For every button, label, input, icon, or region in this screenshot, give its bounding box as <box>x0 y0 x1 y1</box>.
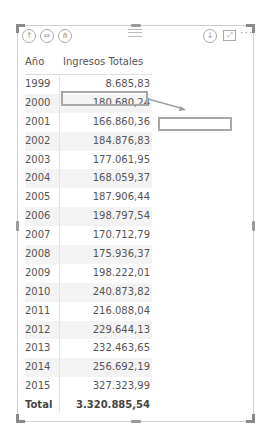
year-cell[interactable]: 2001 <box>25 116 57 127</box>
revenue-cell[interactable]: 256.692,19 <box>93 361 150 372</box>
table-row[interactable]: 2003177.061,95 <box>25 151 152 170</box>
visual-header-toolbar: ↑ ⇔ ⋔ ↓ ⤢ ··· <box>18 26 253 46</box>
year-cell[interactable]: 2003 <box>25 154 57 165</box>
year-cell[interactable]: 2011 <box>25 305 57 316</box>
table-row[interactable]: 2002184.876,83 <box>25 132 152 151</box>
resize-handle-right[interactable] <box>252 221 255 231</box>
table-row[interactable]: 2013232.463,65 <box>25 339 152 358</box>
revenue-cell[interactable]: 175.936,37 <box>93 248 150 259</box>
resize-handle-left[interactable] <box>16 221 19 231</box>
year-cell[interactable]: 2004 <box>25 172 57 183</box>
total-value: 3.320.885,54 <box>76 399 150 410</box>
table-row[interactable]: 2006198.797,54 <box>25 207 152 226</box>
revenue-cell[interactable]: 216.088,04 <box>93 305 150 316</box>
year-cell[interactable]: 2005 <box>25 191 57 202</box>
focus-mode-icon[interactable]: ⤢ <box>223 30 236 41</box>
resize-corner-bottom-right[interactable] <box>246 414 255 423</box>
revenue-cell[interactable]: 327.323,99 <box>93 380 150 391</box>
revenue-cell[interactable]: 240.873,82 <box>93 286 150 297</box>
revenue-cell[interactable]: 168.059,37 <box>93 172 150 183</box>
year-cell[interactable]: 2013 <box>25 342 57 353</box>
total-label: Total <box>25 399 57 410</box>
table-row[interactable]: 2007170.712,79 <box>25 226 152 245</box>
table-row[interactable]: 2015327.323,99 <box>25 377 152 396</box>
total-row: Total 3.320.885,54 <box>25 396 152 415</box>
more-options-icon[interactable]: ··· <box>240 26 254 39</box>
year-cell[interactable]: 2010 <box>25 286 57 297</box>
year-cell[interactable]: 2014 <box>25 361 57 372</box>
revenue-cell[interactable]: 177.061,95 <box>93 154 150 165</box>
column-header-year[interactable]: Año <box>25 56 44 67</box>
drill-mode-icon[interactable]: ↓ <box>203 29 217 43</box>
drag-grip-icon[interactable] <box>128 29 142 37</box>
revenue-cell[interactable]: 184.876,83 <box>93 135 150 146</box>
column-divider <box>59 75 60 413</box>
year-cell[interactable]: 2000 <box>25 97 57 108</box>
revenue-cell[interactable]: 229.644,13 <box>93 324 150 335</box>
table-row[interactable]: 2004168.059,37 <box>25 169 152 188</box>
year-cell[interactable]: 2009 <box>25 267 57 278</box>
year-cell[interactable]: 2002 <box>25 135 57 146</box>
table-row[interactable]: 2001166.860,36 <box>25 113 152 132</box>
revenue-cell[interactable]: 8.685,83 <box>105 78 150 89</box>
expand-all-icon[interactable]: ⇔ <box>40 29 54 43</box>
table-row[interactable]: 2011216.088,04 <box>25 302 152 321</box>
year-cell[interactable]: 2007 <box>25 229 57 240</box>
drill-down-hierarchy-icon[interactable]: ⋔ <box>58 29 72 43</box>
callout-box <box>158 117 232 131</box>
revenue-cell[interactable]: 166.860,36 <box>93 116 150 127</box>
revenue-cell[interactable]: 187.906,44 <box>93 191 150 202</box>
table-row[interactable]: 2009198.222,01 <box>25 264 152 283</box>
column-header-revenue[interactable]: Ingresos Totales <box>63 56 143 67</box>
year-cell[interactable]: 2015 <box>25 380 57 391</box>
table-visual[interactable]: ↑ ⇔ ⋔ ↓ ⤢ ··· Año Ingresos Totales 19998… <box>17 25 254 422</box>
table-header: Año Ingresos Totales <box>25 53 152 75</box>
revenue-cell[interactable]: 198.222,01 <box>93 267 150 278</box>
resize-corner-bottom-left[interactable] <box>16 414 25 423</box>
drill-up-icon[interactable]: ↑ <box>22 29 36 43</box>
year-cell[interactable]: 2012 <box>25 324 57 335</box>
table-row[interactable]: 2012229.644,13 <box>25 321 152 340</box>
year-cell[interactable]: 2006 <box>25 210 57 221</box>
resize-handle-bottom[interactable] <box>131 420 141 423</box>
table-row[interactable]: 2010240.873,82 <box>25 283 152 302</box>
revenue-cell[interactable]: 198.797,54 <box>93 210 150 221</box>
highlight-box-2000 <box>61 91 148 106</box>
table-row[interactable]: 2014256.692,19 <box>25 358 152 377</box>
data-table: Año Ingresos Totales 19998.685,832000180… <box>25 53 152 415</box>
revenue-cell[interactable]: 232.463,65 <box>93 342 150 353</box>
year-cell[interactable]: 2008 <box>25 248 57 259</box>
year-cell[interactable]: 1999 <box>25 78 57 89</box>
revenue-cell[interactable]: 170.712,79 <box>93 229 150 240</box>
table-row[interactable]: 2008175.936,37 <box>25 245 152 264</box>
table-row[interactable]: 2005187.906,44 <box>25 188 152 207</box>
